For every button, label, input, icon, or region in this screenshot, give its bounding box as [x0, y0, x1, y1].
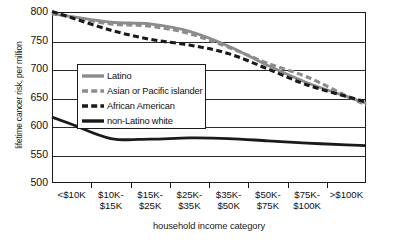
chart-legend: LatinoAsian or Pacific islanderAfrican A… — [77, 64, 206, 129]
y-tick-800: 800 — [14, 6, 48, 16]
legend-item-asian-or-pacific-islander: Asian or Pacific islander — [82, 83, 205, 98]
y-tick-750: 750 — [14, 35, 48, 45]
y-tick-500: 500 — [14, 177, 48, 187]
legend-item-african-american: African American — [82, 98, 205, 113]
y-tick-700: 700 — [14, 63, 48, 73]
y-tick-550: 550 — [14, 149, 48, 159]
x-tick-mark-6 — [288, 183, 289, 188]
x-axis-title: household income category — [52, 220, 366, 231]
y-tick-600: 600 — [14, 120, 48, 130]
cancer-risk-line-chart: lifetime cancer risk, per million 800750… — [0, 0, 394, 246]
legend-swatch-icon — [82, 86, 104, 96]
legend-label: non-Latino white — [107, 116, 173, 126]
legend-swatch-icon — [82, 116, 104, 126]
legend-swatch-icon — [82, 101, 104, 111]
legend-label: Latino — [107, 71, 131, 81]
x-tick-mark-3 — [170, 183, 171, 188]
x-tick-mark-7 — [327, 183, 328, 188]
y-axis-tick-labels: 800750700650600550500 — [10, 0, 48, 246]
legend-label: Asian or Pacific islander — [107, 86, 202, 96]
legend-swatch-icon — [82, 71, 104, 81]
x-tick-mark-2 — [131, 183, 132, 188]
y-tick-650: 650 — [14, 92, 48, 102]
x-tick-label-7: >$100K — [318, 189, 374, 200]
legend-item-non-latino-white: non-Latino white — [82, 113, 205, 128]
legend-label: African American — [107, 101, 175, 111]
x-tick-mark-4 — [209, 183, 210, 188]
x-tick-mark-1 — [91, 183, 92, 188]
x-tick-mark-5 — [248, 183, 249, 188]
legend-item-latino: Latino — [82, 68, 205, 83]
